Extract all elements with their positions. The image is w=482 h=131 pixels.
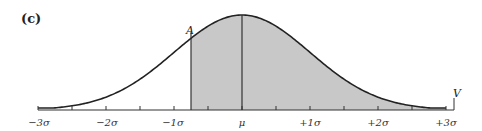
normal-distribution-figure: (c) A V −3σ −2σ −1σ μ +1σ +2σ +3σ xyxy=(0,0,482,131)
tick-label-minus2: −2σ xyxy=(96,117,119,128)
shaded-area xyxy=(191,15,446,110)
tick-label-minus1: −1σ xyxy=(162,117,185,128)
tick-label-plus1: +1σ xyxy=(299,117,322,128)
tick-label-minus3: −3σ xyxy=(28,117,51,128)
panel-label: (c) xyxy=(21,11,41,26)
tick-label-plus3: +3σ xyxy=(435,117,458,128)
tick-label-mu: μ xyxy=(239,117,246,128)
point-label-v: V xyxy=(453,87,462,100)
tick-label-plus2: +2σ xyxy=(367,117,390,128)
point-label-a: A xyxy=(185,24,194,37)
tick-labels: −3σ −2σ −1σ μ +1σ +2σ +3σ xyxy=(28,117,458,128)
